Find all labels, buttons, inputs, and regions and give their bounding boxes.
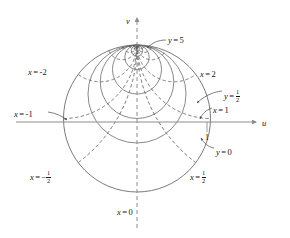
label-y-0: y=0 [216,148,232,157]
fraction-one-half-2: 12 [202,170,206,184]
label-x-minus-half: x=−12 [30,170,51,184]
label-y-0-var: y [216,147,220,157]
u-axis-tick-label-1: 1 [205,133,209,142]
label-y-0-value: 0 [228,147,232,157]
u-axis-label: u [262,118,266,128]
label-x-minus-half-var: x [30,172,34,182]
curve-x-2 [78,45,137,82]
label-x-1-value: 1 [225,105,229,115]
label-y-half-var: y [224,91,228,101]
curve-x-2 [137,45,196,82]
label-x-minus-1-value: -1 [26,109,33,119]
fraction-one-half: 12 [236,89,240,103]
conformal-map-figure: y=5 x=2 y=12 x=1 y=0 x=12 x=-2 x=-1 x=−1… [0,0,290,238]
label-x-half-var: x [190,172,194,182]
label-x-0: x=0 [117,208,133,217]
label-x-minus-2-value: -2 [40,67,47,77]
label-x-minus-1: x=-1 [14,110,33,119]
label-x-1: x=1 [213,106,229,115]
label-y-half: y=12 [224,89,240,103]
label-x-minus-2-var: x [28,67,32,77]
fraction-one-half-3: 12 [46,170,50,184]
label-x-0-value: 0 [129,207,133,217]
plot-canvas [0,0,290,238]
label-x-1-var: x [213,105,217,115]
label-y-5-var: y [168,35,172,45]
label-x-2: x=2 [200,70,216,79]
leader-y-half [197,91,222,103]
label-y-5: y=5 [168,36,184,45]
label-y-5-value: 5 [180,35,184,45]
label-x-2-var: x [200,69,204,79]
label-x-minus-2: x=-2 [28,68,47,77]
label-x-0-var: x [117,207,121,217]
v-axis-label: v [126,16,130,26]
label-x-minus-1-var: x [14,109,18,119]
label-x-2-value: 2 [212,69,216,79]
label-x-half: x=12 [190,170,206,184]
